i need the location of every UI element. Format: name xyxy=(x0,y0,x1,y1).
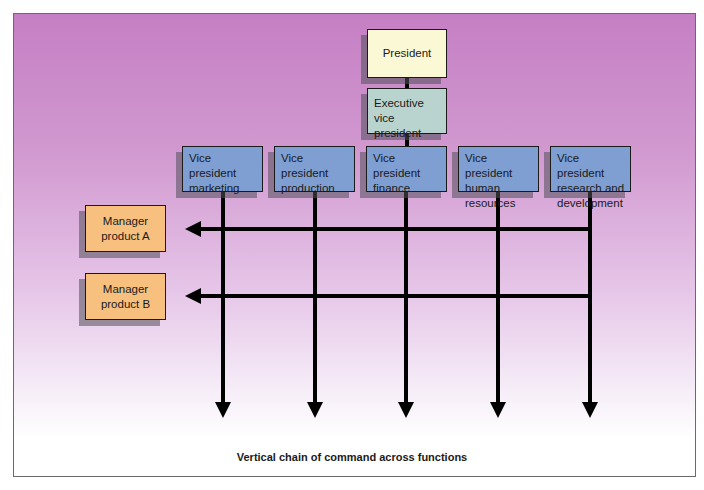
box-vp-research-development: Vice president research and development xyxy=(550,146,631,192)
evp-label: Executive vice president xyxy=(374,97,424,139)
vp-finance-label: Vice president finance xyxy=(373,152,420,194)
box-manager-product-a: Manager product A xyxy=(85,205,166,252)
box-president: President xyxy=(367,29,447,78)
box-executive-vice-president: Executive vice president xyxy=(367,88,447,134)
diagram-caption: Vertical chain of command across functio… xyxy=(0,451,704,463)
vp-production-label: Vice president production xyxy=(281,152,335,194)
box-vp-production: Vice president production xyxy=(274,146,355,192)
box-vp-human-resources: Vice president human resources xyxy=(458,146,539,192)
vp-rd-label: Vice president research and development xyxy=(557,152,624,209)
box-vp-marketing: Vice president marketing xyxy=(182,146,263,192)
president-label: President xyxy=(383,46,432,61)
vp-hr-label: Vice president human resources xyxy=(465,152,516,209)
vp-marketing-label: Vice president marketing xyxy=(189,152,240,194)
box-manager-product-b: Manager product B xyxy=(85,273,166,320)
manager-b-label: Manager product B xyxy=(96,282,155,312)
manager-a-label: Manager product A xyxy=(96,214,155,244)
box-vp-finance: Vice president finance xyxy=(366,146,447,192)
